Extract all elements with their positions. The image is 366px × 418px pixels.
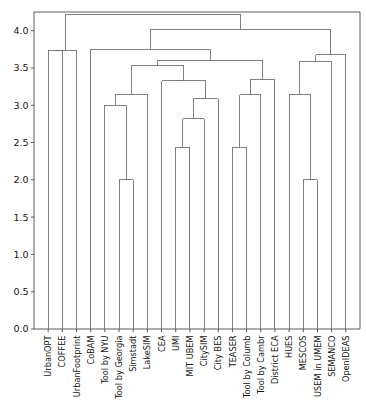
dendrogram-link <box>176 147 190 329</box>
leaf-label: Tool by Cambr <box>256 335 266 395</box>
dendrogram-plot-area: 0.00.51.01.52.02.53.03.54.0 UrbanOPTCOFF… <box>0 0 366 418</box>
dendrogram-link <box>55 50 76 329</box>
leaf-label: UrbanOPT <box>43 335 53 377</box>
dendrogram-link <box>193 99 218 329</box>
leaf-label: COFFEE <box>57 336 67 368</box>
leaf-label: MIT UBEM <box>185 336 195 377</box>
y-tick-label: 2.0 <box>13 174 28 185</box>
leaf-label: District ECA <box>270 335 280 384</box>
y-tick-label: 4.0 <box>13 25 28 36</box>
dendrogram-link <box>183 119 204 329</box>
leaf-label: Simstadt <box>128 335 138 372</box>
y-tick-label: 2.5 <box>13 137 28 148</box>
y-tick-label: 3.0 <box>13 100 28 111</box>
dendrogram-link <box>158 60 263 79</box>
y-tick-label: 1.0 <box>13 249 28 260</box>
dendrogram-links <box>48 14 346 329</box>
dendrogram-link <box>48 50 62 329</box>
leaf-label: SEMANCO <box>327 336 337 377</box>
dendrogram-link <box>250 79 275 329</box>
leaf-label: CitySIM <box>199 336 209 367</box>
y-tick-label: 3.5 <box>13 62 28 73</box>
dendrogram-link <box>303 180 317 329</box>
leaf-label: City BES <box>213 336 223 371</box>
dendrogram-link <box>105 105 126 329</box>
dendrogram-link <box>240 95 261 329</box>
dendrogram-link <box>316 55 346 329</box>
dendrogram-link <box>119 180 133 329</box>
dendrogram-link <box>232 147 246 329</box>
leaf-label: LakeSIM <box>142 336 152 370</box>
leaf-label: Tool by NYU <box>100 336 110 385</box>
leaf-label: HUES <box>284 336 294 359</box>
dendrogram-link <box>300 61 332 329</box>
dendrogram-link <box>131 66 183 94</box>
leaf-label: USEM in UMEM <box>313 336 323 397</box>
dendrogram-figure: 0.00.51.01.52.02.53.03.54.0 UrbanOPTCOFF… <box>0 0 366 418</box>
leaf-label: MESCOS <box>298 336 308 371</box>
y-tick-label: 0.5 <box>13 286 28 297</box>
y-tick-label: 0.0 <box>13 323 28 334</box>
leaf-label: UrbanFootprint <box>72 335 82 397</box>
leaf-label: OpenIDEAS <box>341 336 351 383</box>
dendrogram-link <box>91 49 210 329</box>
leaf-label: TEASER <box>228 335 238 368</box>
leaf-label: CEA <box>157 335 167 352</box>
dendrogram-link <box>116 94 148 329</box>
x-axis <box>34 12 360 332</box>
dendrogram-link <box>162 81 206 329</box>
y-tick-label: 1.5 <box>13 212 28 223</box>
leaf-label: UMI <box>171 336 181 351</box>
dendrogram-link <box>150 29 330 54</box>
leaf-labels: UrbanOPTCOFFEEUrbanFootprintCoBAMTool by… <box>43 335 351 400</box>
dendrogram-link <box>289 94 310 329</box>
leaf-label: Tool by Georgia <box>114 336 124 400</box>
dendrogram-link <box>66 14 241 50</box>
leaf-label: CoBAM <box>86 336 96 365</box>
leaf-label: Tool by Columb <box>242 336 252 400</box>
